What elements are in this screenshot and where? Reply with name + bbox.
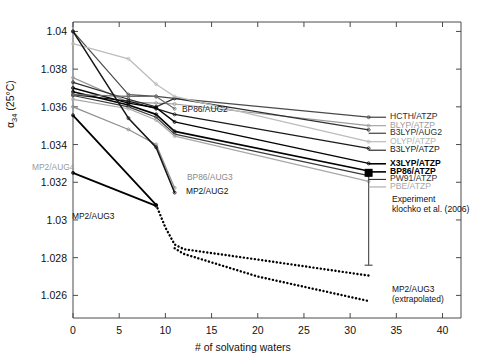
y-axis-title-subscript: 34 (10, 114, 19, 122)
y-axis-title: α34 (25°C) (4, 80, 19, 128)
y-tick-label: 1.036 (22, 101, 67, 113)
x-tick-label: 30 (330, 324, 370, 336)
x-tick-label: 20 (238, 324, 278, 336)
inline-series-label: BP86/AUG3 (187, 172, 233, 182)
inline-series-label: BP86/AUG2 (182, 104, 228, 114)
inline-series-label: MP2/AUG4 (32, 162, 74, 172)
y-tick-label: 1.034 (22, 139, 67, 151)
x-tick-label: 0 (53, 324, 93, 336)
inline-series-label: MP2/AUG3 (392, 284, 434, 294)
x-tick-label: 25 (284, 324, 324, 336)
chart-figure: 1.0261.0281.031.0321.0341.0361.0381.04 0… (0, 0, 490, 364)
x-tick-label: 15 (192, 324, 232, 336)
legend-entry-label: PBE/ATZP (390, 182, 431, 192)
y-axis-title-symbol: α (4, 122, 16, 128)
y-tick-label: 1.03 (22, 214, 67, 226)
x-tick-label: 10 (145, 324, 185, 336)
experiment-square-marker (365, 169, 373, 177)
legend-entry-label: B3LYP/ATZP (390, 145, 440, 155)
inline-series-label: MP2/AUG3 (72, 211, 114, 221)
y-tick-label: 1.026 (22, 289, 67, 301)
x-tick-label: 35 (376, 324, 416, 336)
x-tick-label: 5 (99, 324, 139, 336)
y-axis-title-units: (25°C) (4, 80, 16, 113)
y-tick-label: 1.04 (22, 25, 67, 37)
y-tick-label: 1.028 (22, 252, 67, 264)
x-tick-label: 40 (423, 324, 463, 336)
inline-series-label: (extrapolated) (392, 294, 444, 304)
x-axis-title: # of solvating waters (195, 341, 291, 353)
experiment-label-line2: klochko et al. (2006) (392, 205, 469, 215)
inline-series-label: MP2/AUG2 (186, 186, 228, 196)
y-tick-label: 1.032 (22, 176, 67, 188)
y-tick-label: 1.038 (22, 63, 67, 75)
